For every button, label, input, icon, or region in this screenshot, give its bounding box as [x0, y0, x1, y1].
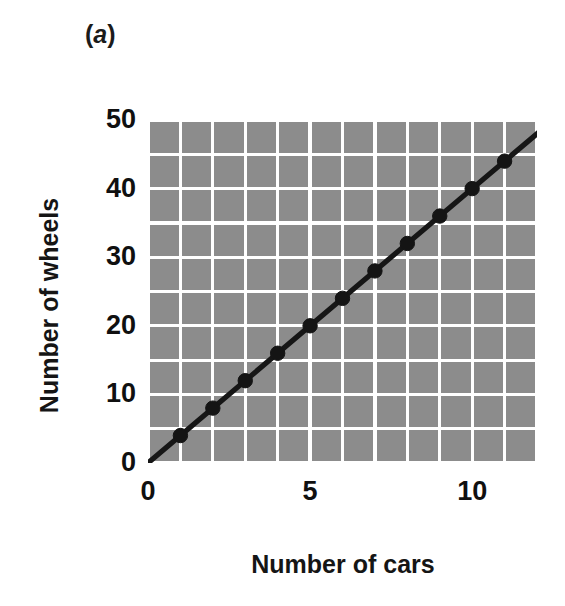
- x-axis-title: Number of cars: [148, 552, 538, 577]
- data-point: [173, 428, 187, 442]
- data-point: [206, 401, 220, 415]
- y-tick-label: 0: [66, 449, 136, 476]
- data-point: [400, 236, 414, 250]
- y-tick-label: 20: [66, 312, 136, 339]
- x-axis-tick-labels: 0510: [0, 478, 565, 518]
- figure-container: (a) Number of wheels Number of cars 0102…: [0, 0, 565, 606]
- x-tick-label: 0: [113, 478, 183, 505]
- data-point: [335, 291, 349, 305]
- plot-area: [148, 120, 537, 463]
- y-tick-label: 30: [66, 243, 136, 270]
- data-point: [433, 209, 447, 223]
- data-point: [497, 154, 511, 168]
- x-tick-label: 10: [437, 478, 507, 505]
- y-tick-label: 10: [66, 380, 136, 407]
- data-layer: [148, 120, 537, 463]
- y-tick-label: 50: [66, 106, 136, 133]
- y-tick-label: 40: [66, 175, 136, 202]
- data-point: [270, 346, 284, 360]
- y-axis-title: Number of wheels: [37, 136, 62, 476]
- data-point: [238, 373, 252, 387]
- x-tick-label: 5: [275, 478, 345, 505]
- data-point: [465, 181, 479, 195]
- data-point: [368, 264, 382, 278]
- data-point: [303, 319, 317, 333]
